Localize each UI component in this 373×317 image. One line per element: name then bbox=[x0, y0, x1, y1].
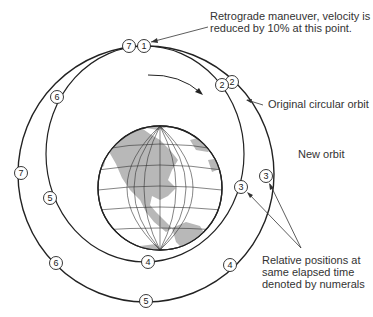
relative-line-2: same elapsed time bbox=[262, 266, 365, 278]
marker-new-4: 4 bbox=[142, 256, 155, 269]
svg-text:5: 5 bbox=[143, 296, 148, 306]
marker-original-1: 1 bbox=[138, 40, 151, 53]
marker-new-2: 2 bbox=[216, 79, 229, 92]
retrograde-line-2: reduced by 10% at this point. bbox=[210, 22, 370, 34]
new-orbit-label: New orbit bbox=[298, 148, 344, 160]
svg-text:5: 5 bbox=[47, 193, 52, 203]
marker-new-3: 3 bbox=[235, 181, 248, 194]
marker-original-6: 6 bbox=[50, 257, 63, 270]
relative-line-3: denoted by numerals bbox=[262, 278, 365, 290]
svg-text:4: 4 bbox=[227, 260, 232, 270]
svg-text:6: 6 bbox=[54, 92, 59, 102]
retrograde-annotation: Retrograde maneuver, velocity is reduced… bbox=[210, 10, 370, 34]
retrograde-line-1: Retrograde maneuver, velocity is bbox=[210, 10, 370, 22]
marker-original-5: 5 bbox=[140, 295, 153, 308]
svg-text:1: 1 bbox=[141, 41, 146, 51]
marker-new-5: 5 bbox=[44, 192, 57, 205]
svg-text:2: 2 bbox=[219, 80, 224, 90]
svg-text:4: 4 bbox=[145, 257, 150, 267]
earth-globe-icon bbox=[98, 113, 222, 252]
marker-original-4: 4 bbox=[224, 259, 237, 272]
relative-line-1: Relative positions at bbox=[262, 254, 365, 266]
marker-new-7: 7 bbox=[123, 40, 136, 53]
marker-original-7: 7 bbox=[15, 167, 28, 180]
svg-text:6: 6 bbox=[53, 258, 58, 268]
svg-text:3: 3 bbox=[263, 171, 268, 181]
svg-text:7: 7 bbox=[18, 168, 23, 178]
svg-text:7: 7 bbox=[126, 41, 131, 51]
original-orbit-label: Original circular orbit bbox=[268, 98, 369, 110]
direction-arrow-icon bbox=[148, 75, 203, 95]
marker-original-3: 3 bbox=[260, 170, 273, 183]
marker-new-6: 6 bbox=[51, 91, 64, 104]
svg-text:3: 3 bbox=[238, 182, 243, 192]
svg-text:2: 2 bbox=[229, 77, 234, 87]
relative-positions-annotation: Relative positions at same elapsed time … bbox=[262, 254, 365, 290]
